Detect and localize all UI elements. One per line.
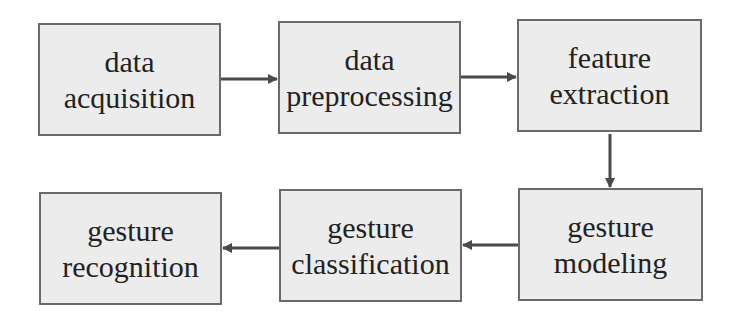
node-label-line1: gesture	[567, 209, 654, 245]
node-label-line2: preprocessing	[286, 78, 453, 114]
node-gesture-recognition: gesture recognition	[39, 192, 222, 305]
node-gesture-classification: gesture classification	[279, 189, 462, 302]
node-label-line1: feature	[568, 40, 651, 76]
node-label-line1: data	[345, 42, 395, 78]
node-data-acquisition: data acquisition	[38, 23, 221, 136]
node-label-line1: gesture	[327, 210, 414, 246]
node-data-preprocessing: data preprocessing	[278, 21, 461, 134]
node-label-line2: modeling	[554, 245, 667, 281]
node-feature-extraction: feature extraction	[517, 19, 702, 132]
node-label-line1: data	[105, 44, 155, 80]
node-label-line1: gesture	[87, 213, 174, 249]
node-label-line2: recognition	[62, 249, 199, 285]
node-gesture-modeling: gesture modeling	[518, 188, 703, 301]
node-label-line2: acquisition	[64, 80, 196, 116]
node-label-line2: extraction	[550, 76, 670, 112]
node-label-line2: classification	[291, 246, 449, 282]
